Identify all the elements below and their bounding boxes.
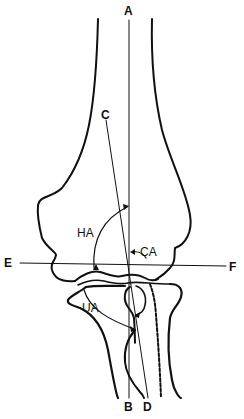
radius-dashed-outline [150,284,161,398]
label-A: A [124,5,133,17]
coronoid-arc [136,286,146,315]
ulna-left-upper [86,286,125,287]
label-C: C [101,109,110,121]
label-F: F [229,261,236,273]
humerus-shaft-left [38,19,98,281]
axis-line-CD [106,120,148,398]
label-B: B [124,401,133,413]
humerus-articular-surface [75,272,158,281]
humerus-shaft-right [152,19,191,280]
label-UA: UA [82,302,99,314]
label-E: E [4,257,12,269]
elbow-diagram [0,0,244,419]
radial-head [125,287,135,343]
joint-line-lower [78,280,170,285]
radius-right-outline [169,284,182,398]
HA-arc-arrow [94,207,127,268]
label-HA: HA [77,227,94,239]
CA-arrowhead [130,249,135,255]
label-CA: CA [140,246,157,258]
label-D: D [143,401,152,413]
HA-arrowhead [123,204,129,210]
